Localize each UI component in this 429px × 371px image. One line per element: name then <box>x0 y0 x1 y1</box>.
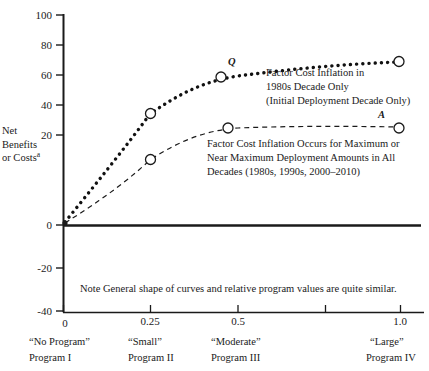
y-axis-title-footnote-marker: a <box>37 150 40 159</box>
data-point-marker <box>146 109 156 119</box>
y-tick-label-minus20: -20 <box>14 263 52 274</box>
y-axis-title-text: Net Benefits or Costs <box>2 125 37 163</box>
annotation-lower-line-1: Factor Cost Inflation Occurs for Maximum… <box>207 137 399 151</box>
origin-marker <box>62 220 67 225</box>
data-point-marker <box>216 72 226 82</box>
y-tick-label-0: 0 <box>18 220 52 231</box>
chart-container: 100 80 60 40 20 0 -20 -40 Net Benefits o… <box>0 0 429 371</box>
data-point-marker <box>394 57 404 67</box>
y-tick-label-minus40: -40 <box>14 306 52 317</box>
program-label-i-quoted: “No Program” <box>29 335 90 349</box>
x-tick-label-10: 1.0 <box>380 316 420 327</box>
x-tick-label-05: 0.5 <box>218 316 258 327</box>
data-point-label-a: A <box>378 110 385 121</box>
y-axis-title: Net Benefits or Costsa <box>2 124 48 165</box>
chart-note: Note General shape of curves and relativ… <box>80 282 397 295</box>
data-point-label-q: Q <box>228 57 236 68</box>
annotation-lower-line-3: Decades (1980s, 1990s, 2000–2010) <box>207 165 360 179</box>
program-label-iv-name: Program IV <box>366 351 416 365</box>
y-tick-label-100: 100 <box>18 10 52 21</box>
program-label-iv-quoted: “Large” <box>370 335 404 349</box>
data-point-marker <box>146 155 156 165</box>
y-tick-label-40: 40 <box>18 100 52 111</box>
y-tick-label-60: 60 <box>18 70 52 81</box>
chart-plot-area <box>0 0 429 371</box>
y-tick-label-80: 80 <box>18 40 52 51</box>
annotation-lower-line-2: Near Maximum Deployment Amounts in All <box>207 151 395 165</box>
program-label-iii-quoted: “Moderate” <box>211 335 261 349</box>
data-point-marker <box>394 123 404 133</box>
annotation-upper-line-2: 1980s Decade Only <box>266 80 349 94</box>
program-label-i-name: Program I <box>29 351 71 365</box>
annotation-upper-line-1: Factor Cost Inflation in <box>266 66 364 80</box>
x-tick-label-025: 0.25 <box>130 316 170 327</box>
data-point-marker <box>223 123 233 133</box>
program-label-iii-name: Program III <box>211 351 260 365</box>
program-label-ii-quoted: “Small” <box>128 335 162 349</box>
x-tick-label-0: 0 <box>50 318 80 329</box>
program-label-ii-name: Program II <box>128 351 174 365</box>
annotation-upper-line-3: (Initial Deployment Decade Only) <box>266 94 410 108</box>
